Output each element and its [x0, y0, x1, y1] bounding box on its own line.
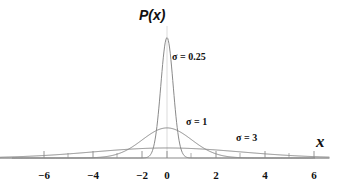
- sigma-3-annotation: σ = 3: [236, 133, 257, 143]
- x-tick-label: −6: [38, 169, 50, 181]
- x-tick-label: −2: [136, 169, 148, 181]
- gaussian-distribution-chart: P(x) x σ = 0.25 σ = 1 σ = 3 −6 −4 −2 0 2…: [0, 0, 337, 191]
- curve-sigma-3: [0, 148, 329, 157]
- curve-sigma-1: [0, 128, 329, 158]
- x-tick-label: −4: [87, 169, 99, 181]
- x-tick-label: 4: [262, 169, 268, 181]
- x-tick-label: 0: [164, 169, 170, 181]
- x-tick-label: 2: [213, 169, 219, 181]
- x-axis-title: x: [316, 133, 325, 150]
- curve-sigma-0-25: [0, 38, 329, 158]
- x-tick-label: 6: [311, 169, 317, 181]
- sigma-025-annotation: σ = 0.25: [172, 52, 206, 62]
- chart-canvas: [0, 0, 337, 191]
- y-axis-title: P(x): [139, 8, 165, 22]
- sigma-1-annotation: σ = 1: [186, 117, 207, 127]
- distribution-curves: [0, 38, 329, 158]
